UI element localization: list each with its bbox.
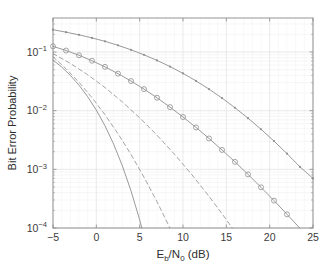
x-tick-labels: −50510152025: [47, 231, 319, 243]
series-marker-dot: [260, 128, 262, 130]
series-marker-dot: [169, 65, 171, 67]
y-tick-label: 10−4: [27, 220, 47, 233]
y-tick-label: 10−3: [27, 162, 47, 175]
series-marker-dot: [117, 44, 119, 46]
series-marker-dot: [221, 97, 223, 99]
x-tick-label: −5: [47, 231, 59, 243]
x-tick-label: 10: [177, 231, 189, 243]
y-tick-label: 10−1: [27, 44, 47, 57]
y-tick-labels: 10−110−210−310−4: [27, 44, 47, 233]
x-tick-label: 25: [307, 231, 319, 243]
series-marker-dot: [182, 72, 184, 74]
x-axis-title: Eb/N0 (dB): [156, 248, 209, 263]
series-marker-dot: [299, 166, 301, 168]
series-marker-dot: [104, 40, 106, 42]
x-tick-label: 0: [93, 231, 99, 243]
y-axis-title: Bit Error Probability: [6, 75, 18, 170]
series-marker-dot: [78, 34, 80, 36]
figure-container: −5051015202510−110−210−310−4Bit Error Pr…: [0, 0, 335, 272]
series-marker-dot: [273, 140, 275, 142]
series-marker-dot: [156, 59, 158, 61]
series-marker-dot: [130, 49, 132, 51]
series-marker-dot: [91, 37, 93, 39]
series-marker-dot: [65, 31, 67, 33]
series-marker-dot: [195, 80, 197, 82]
series-marker-dot: [208, 88, 210, 90]
series-marker-dot: [143, 54, 145, 56]
series-marker-dot: [234, 107, 236, 109]
series-line-5: [53, 60, 142, 228]
ber-plot: −5051015202510−110−210−310−4Bit Error Pr…: [0, 0, 335, 272]
series-line-3: [53, 54, 232, 228]
series-line-2: [53, 46, 300, 228]
series-marker-dot: [286, 153, 288, 155]
x-tick-label: 20: [264, 231, 276, 243]
x-tick-label: 15: [220, 231, 232, 243]
series-marker-dot: [247, 117, 249, 119]
x-tick-label: 5: [137, 231, 143, 243]
y-tick-label: 10−2: [27, 103, 47, 116]
grid-major: [53, 18, 313, 228]
